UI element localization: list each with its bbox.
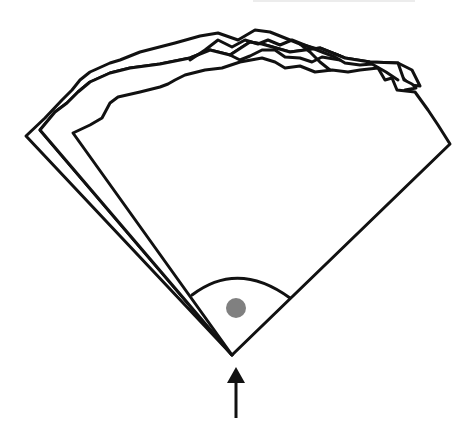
front-sheet <box>73 58 450 355</box>
up-arrow-icon <box>227 367 245 418</box>
observer-dot <box>226 298 246 318</box>
fan-diagram <box>0 0 463 435</box>
